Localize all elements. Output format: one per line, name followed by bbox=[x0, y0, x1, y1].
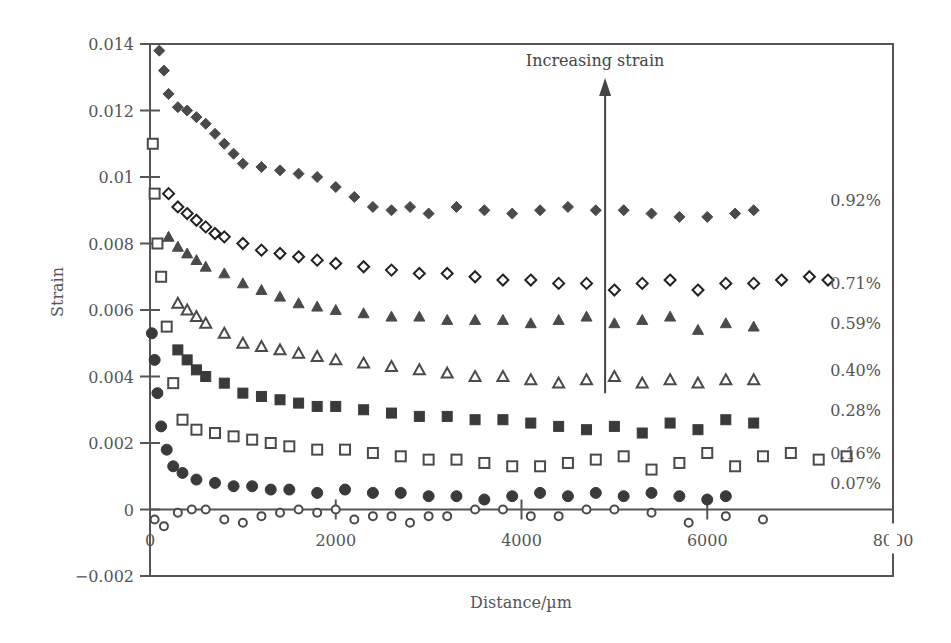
circle-marker-icon bbox=[425, 512, 433, 520]
circle-marker-icon bbox=[151, 515, 159, 523]
circle-marker-icon bbox=[720, 491, 731, 502]
x-tick-label: 6000 bbox=[687, 531, 728, 550]
circle-marker-icon bbox=[369, 512, 377, 520]
square-marker-icon bbox=[284, 441, 294, 451]
square-marker-icon bbox=[498, 415, 508, 425]
y-tick-label: 0.014 bbox=[88, 35, 134, 54]
circle-marker-icon bbox=[210, 477, 221, 488]
x-tick-label: 0 bbox=[145, 531, 155, 550]
circle-marker-icon bbox=[527, 512, 535, 520]
circle-marker-icon bbox=[350, 515, 358, 523]
circle-marker-icon bbox=[759, 515, 767, 523]
square-marker-icon bbox=[479, 458, 489, 468]
circle-marker-icon bbox=[451, 491, 462, 502]
square-marker-icon bbox=[173, 345, 183, 355]
circle-marker-icon bbox=[562, 491, 573, 502]
square-marker-icon bbox=[168, 378, 178, 388]
square-marker-icon bbox=[758, 451, 768, 461]
circle-marker-icon bbox=[648, 509, 656, 517]
circle-marker-icon bbox=[202, 506, 210, 514]
square-marker-icon bbox=[591, 455, 601, 465]
circle-marker-icon bbox=[590, 487, 601, 498]
square-marker-icon bbox=[152, 239, 162, 249]
square-marker-icon bbox=[619, 451, 629, 461]
square-marker-icon bbox=[182, 355, 192, 365]
circle-marker-icon bbox=[160, 522, 168, 530]
square-marker-icon bbox=[150, 189, 160, 199]
y-tick-label: 0.004 bbox=[88, 368, 134, 387]
series-label: 0.71% bbox=[830, 274, 881, 293]
y-tick-label: 0 bbox=[124, 501, 134, 520]
circle-marker-icon bbox=[722, 512, 730, 520]
series-label: 0.07% bbox=[830, 474, 881, 493]
circle-marker-icon bbox=[479, 494, 490, 505]
circle-marker-icon bbox=[149, 354, 160, 365]
x-axis-title: Distance/µm bbox=[470, 593, 572, 612]
circle-marker-icon bbox=[313, 509, 321, 517]
circle-marker-icon bbox=[174, 509, 182, 517]
square-marker-icon bbox=[312, 445, 322, 455]
circle-marker-icon bbox=[220, 515, 228, 523]
annotation-label: Increasing strain bbox=[526, 51, 664, 70]
square-marker-icon bbox=[340, 445, 350, 455]
square-marker-icon bbox=[609, 421, 619, 431]
y-tick-label: 0.012 bbox=[88, 102, 134, 121]
square-marker-icon bbox=[814, 455, 824, 465]
circle-marker-icon bbox=[387, 512, 395, 520]
y-tick-label: 0.006 bbox=[88, 301, 134, 320]
circle-marker-icon bbox=[395, 487, 406, 498]
circle-marker-icon bbox=[535, 487, 546, 498]
circle-marker-icon bbox=[646, 487, 657, 498]
square-marker-icon bbox=[730, 461, 740, 471]
circle-marker-icon bbox=[257, 512, 265, 520]
square-marker-icon bbox=[238, 388, 248, 398]
circle-marker-icon bbox=[265, 484, 276, 495]
square-marker-icon bbox=[396, 451, 406, 461]
square-marker-icon bbox=[563, 458, 573, 468]
circle-marker-icon bbox=[312, 487, 323, 498]
square-marker-icon bbox=[201, 372, 211, 382]
square-marker-icon bbox=[721, 415, 731, 425]
circle-marker-icon bbox=[191, 474, 202, 485]
circle-marker-icon bbox=[188, 506, 196, 514]
circle-marker-icon bbox=[406, 519, 414, 527]
square-marker-icon bbox=[162, 322, 172, 332]
square-marker-icon bbox=[191, 425, 201, 435]
square-marker-icon bbox=[702, 448, 712, 458]
square-marker-icon bbox=[442, 411, 452, 421]
circle-marker-icon bbox=[276, 509, 284, 517]
circle-marker-icon bbox=[507, 491, 518, 502]
square-marker-icon bbox=[424, 455, 434, 465]
series-label: 0.40% bbox=[830, 361, 881, 380]
circle-marker-icon bbox=[555, 512, 563, 520]
square-marker-icon bbox=[368, 448, 378, 458]
circle-marker-icon bbox=[332, 506, 340, 514]
circle-marker-icon bbox=[239, 519, 247, 527]
square-marker-icon bbox=[414, 411, 424, 421]
series-label: 0.28% bbox=[830, 401, 881, 420]
square-marker-icon bbox=[156, 272, 166, 282]
square-marker-icon bbox=[535, 461, 545, 471]
strain-distance-chart: 02000400060008000 −0.00200.0020.0040.006… bbox=[0, 0, 951, 643]
circle-marker-icon bbox=[610, 506, 618, 514]
square-marker-icon bbox=[451, 455, 461, 465]
square-marker-icon bbox=[275, 395, 285, 405]
square-marker-icon bbox=[359, 405, 369, 415]
square-marker-icon bbox=[386, 408, 396, 418]
circle-marker-icon bbox=[156, 421, 167, 432]
circle-marker-icon bbox=[284, 484, 295, 495]
square-marker-icon bbox=[256, 391, 266, 401]
circle-marker-icon bbox=[146, 328, 157, 339]
circle-marker-icon bbox=[702, 494, 713, 505]
square-marker-icon bbox=[470, 415, 480, 425]
square-marker-icon bbox=[148, 139, 158, 149]
circle-marker-icon bbox=[423, 491, 434, 502]
y-tick-label: 0.002 bbox=[88, 434, 134, 453]
square-marker-icon bbox=[229, 431, 239, 441]
circle-marker-icon bbox=[583, 506, 591, 514]
square-marker-icon bbox=[191, 365, 201, 375]
circle-marker-icon bbox=[340, 484, 351, 495]
circle-marker-icon bbox=[367, 487, 378, 498]
y-tick-label: −0.002 bbox=[75, 567, 134, 586]
square-marker-icon bbox=[554, 421, 564, 431]
